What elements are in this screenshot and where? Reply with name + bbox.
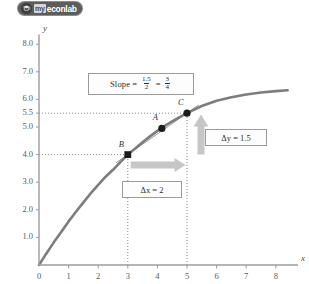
point-label-C: C (178, 97, 184, 107)
x-tick-label: 7 (239, 271, 253, 281)
point-label-A: A (153, 112, 158, 122)
x-tick-label: 0 (32, 271, 46, 281)
slope-denominator-1: 2 (144, 83, 150, 91)
delta-y-callout: Δy = 1.5 (205, 129, 267, 146)
curve-group (39, 90, 288, 265)
curve-line (39, 90, 288, 265)
y-tick-label: 1.0 (9, 231, 33, 241)
x-tick-label: 8 (269, 271, 283, 281)
slope-equals-2: = (156, 79, 161, 89)
y-tick-label: 2.0 (9, 204, 33, 214)
chart-figure: my econlab y x 1.02.03.04.05.05.56.07.08… (0, 0, 309, 284)
x-tick-label: 3 (121, 271, 135, 281)
y-tick-label: 6.0 (9, 93, 33, 103)
slope-formula-callout: Slope = 1.5 2 = 3 4 (88, 73, 194, 95)
delta-x-callout: Δx = 2 (122, 181, 182, 198)
y-tick-label: 8.0 (9, 38, 33, 48)
y-tick-label: 5.5 (9, 107, 33, 117)
point-label-B: B (119, 139, 124, 149)
slope-label: Slope (110, 79, 130, 89)
slope-numerator-1: 1.5 (141, 76, 152, 83)
x-tick-label: 2 (91, 271, 105, 281)
right-arrow-icon (131, 158, 186, 172)
y-axis-label: y (43, 23, 47, 33)
y-tick-label: 3.0 (9, 176, 33, 186)
y-tick-label: 4.0 (9, 149, 33, 159)
x-tick-label: 6 (210, 271, 224, 281)
x-tick-label: 1 (62, 271, 76, 281)
slope-numerator-2: 3 (165, 76, 171, 83)
point-marker-B (124, 151, 131, 158)
slope-fraction-1: 1.5 2 (141, 76, 152, 91)
x-axis-label: x (301, 253, 305, 263)
y-tick-label: 5.0 (9, 121, 33, 131)
x-tick-label: 5 (180, 271, 194, 281)
x-tick-label: 4 (150, 271, 164, 281)
slope-denominator-2: 4 (165, 83, 171, 91)
point-marker-A (158, 125, 165, 132)
slope-equals-1: = (132, 79, 137, 89)
y-tick-label: 7.0 (9, 66, 33, 76)
point-marker-C (183, 110, 190, 117)
axes-group (36, 35, 298, 269)
slope-fraction-2: 3 4 (165, 76, 171, 91)
